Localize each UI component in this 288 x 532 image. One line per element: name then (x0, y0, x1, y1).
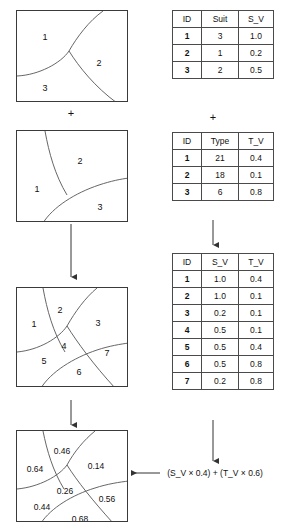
cell-type: 18 (202, 167, 239, 184)
table-header-row: ID S_V T_V (173, 254, 274, 271)
cell-tv: 0.8 (239, 373, 274, 390)
table-row[interactable]: 3 2 0.5 (173, 62, 274, 79)
region-label: 1 (34, 185, 39, 194)
cell-sv: 0.2 (239, 45, 274, 62)
cell-id: 3 (173, 184, 202, 201)
region-label: 1 (31, 320, 36, 329)
cell-tv: 0.1 (239, 167, 274, 184)
region-label: 5 (41, 357, 46, 366)
region-value: 0.64 (27, 465, 44, 474)
cell-sv: 0.5 (202, 322, 239, 339)
cell-id: 5 (173, 339, 202, 356)
column-header-tv: T_V (239, 254, 274, 271)
plus-operator-tables: + (210, 112, 216, 123)
cell-sv: 0.5 (202, 339, 239, 356)
cell-sv: 1.0 (239, 28, 274, 45)
table-row[interactable]: 3 6 0.8 (173, 184, 274, 201)
region-label: 7 (104, 349, 109, 358)
cell-tv: 0.8 (239, 184, 274, 201)
region-label: 1 (42, 33, 47, 42)
cell-tv: 0.4 (239, 271, 274, 288)
cell-id: 1 (173, 28, 202, 45)
cell-suit: 1 (202, 45, 239, 62)
cell-tv: 0.4 (239, 339, 274, 356)
cell-sv: 0.2 (202, 305, 239, 322)
table-row[interactable]: 4 0.5 0.1 (173, 322, 274, 339)
column-header-type: Type (202, 133, 239, 150)
cell-id: 2 (173, 288, 202, 305)
cell-sv: 1.0 (202, 288, 239, 305)
cell-id: 6 (173, 356, 202, 373)
cell-id: 2 (173, 45, 202, 62)
region-label: 6 (76, 368, 81, 377)
region-value: 0.44 (34, 503, 51, 512)
region-value: 0.68 (72, 515, 89, 523)
table-row[interactable]: 3 0.2 0.1 (173, 305, 274, 322)
table-row[interactable]: 2 18 0.1 (173, 167, 274, 184)
diagram-canvas: 1 2 3 + 1 2 3 1 2 3 4 5 6 7 (0, 0, 288, 532)
type-table[interactable]: ID Type T_V 1 21 0.4 2 18 0.1 3 6 0.8 (172, 132, 274, 201)
region-label: 3 (42, 84, 47, 93)
type-map-boundaries (17, 131, 128, 222)
cell-id: 3 (173, 305, 202, 322)
region-label: 3 (97, 203, 102, 212)
column-header-suit: Suit (202, 11, 239, 28)
result-map[interactable]: 0.46 0.64 0.14 0.26 0.56 0.44 0.68 (16, 430, 128, 522)
table-row[interactable]: 7 0.2 0.8 (173, 373, 274, 390)
overlay-map[interactable]: 1 2 3 4 5 6 7 (16, 287, 128, 387)
table-row[interactable]: 5 0.5 0.4 (173, 339, 274, 356)
table-row[interactable]: 2 1.0 0.1 (173, 288, 274, 305)
region-label: 2 (57, 306, 62, 315)
cell-id: 3 (173, 62, 202, 79)
region-value: 0.26 (57, 487, 74, 496)
column-header-sv: S_V (202, 254, 239, 271)
soil-map[interactable]: 1 2 3 (16, 10, 128, 102)
region-value: 0.56 (99, 495, 116, 504)
table-header-row: ID Suit S_V (173, 11, 274, 28)
region-label: 4 (61, 342, 66, 351)
cell-tv: 0.4 (239, 150, 274, 167)
region-value: 0.14 (88, 462, 105, 471)
region-label: 3 (95, 319, 100, 328)
cell-tv: 0.8 (239, 356, 274, 373)
cell-sv: 1.0 (202, 271, 239, 288)
cell-tv: 0.1 (239, 288, 274, 305)
table-row[interactable]: 1 21 0.4 (173, 150, 274, 167)
column-header-id: ID (173, 11, 202, 28)
weighted-sum-formula: (S_V × 0.4) + (T_V × 0.6) (167, 468, 263, 478)
cell-id: 2 (173, 167, 202, 184)
cell-type: 21 (202, 150, 239, 167)
plus-operator-maps: + (68, 108, 74, 119)
table-row[interactable]: 1 1.0 0.4 (173, 271, 274, 288)
column-header-tv: T_V (239, 133, 274, 150)
cell-id: 7 (173, 373, 202, 390)
table-row[interactable]: 6 0.5 0.8 (173, 356, 274, 373)
overlay-map-boundaries (17, 288, 128, 387)
suitability-table[interactable]: ID Suit S_V 1 3 1.0 2 1 0.2 3 2 0.5 (172, 10, 274, 79)
soil-map-boundaries (17, 11, 128, 102)
cell-tv: 0.1 (239, 322, 274, 339)
column-header-id: ID (173, 254, 202, 271)
column-header-id: ID (173, 133, 202, 150)
cell-suit: 3 (202, 28, 239, 45)
column-header-sv: S_V (239, 11, 274, 28)
cell-sv: 0.5 (202, 356, 239, 373)
cell-sv: 0.5 (239, 62, 274, 79)
cell-suit: 2 (202, 62, 239, 79)
cell-tv: 0.1 (239, 305, 274, 322)
region-value: 0.46 (54, 447, 71, 456)
cell-type: 6 (202, 184, 239, 201)
table-row[interactable]: 1 3 1.0 (173, 28, 274, 45)
cell-id: 4 (173, 322, 202, 339)
cell-id: 1 (173, 271, 202, 288)
type-map[interactable]: 1 2 3 (16, 130, 128, 222)
cell-id: 1 (173, 150, 202, 167)
table-header-row: ID Type T_V (173, 133, 274, 150)
table-row[interactable]: 2 1 0.2 (173, 45, 274, 62)
region-label: 2 (96, 59, 101, 68)
region-label: 2 (77, 157, 82, 166)
joined-table[interactable]: ID S_V T_V 1 1.0 0.4 2 1.0 0.1 3 0.2 0.1 (172, 253, 274, 390)
cell-sv: 0.2 (202, 373, 239, 390)
